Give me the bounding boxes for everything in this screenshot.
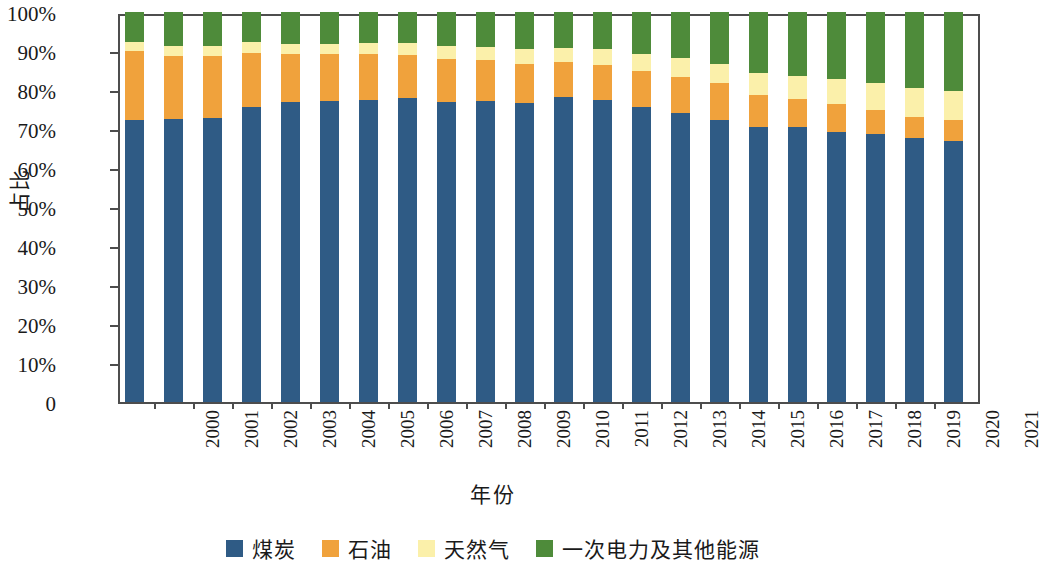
bar-segment-oil: [827, 104, 846, 131]
bar-segment-gas: [866, 83, 885, 110]
bar-segment-oil: [359, 54, 378, 100]
bar-segment-oil: [710, 83, 729, 120]
bar-segment-gas: [164, 46, 183, 56]
x-tick-mark: [856, 402, 858, 409]
bar-stack: [827, 12, 846, 402]
bar-segment-primary-electricity: [905, 12, 924, 88]
bar-segment-oil: [671, 77, 690, 113]
bar-segment-oil: [203, 56, 222, 118]
bar-segment-coal: [203, 118, 222, 402]
bar-segment-coal: [281, 102, 300, 402]
y-tick-label: 100%: [0, 2, 56, 27]
x-tick-label: 2016: [826, 410, 848, 470]
legend-label: 天然气: [444, 533, 510, 563]
bar-segment-gas: [125, 42, 144, 51]
bar-segment-coal: [437, 102, 456, 402]
bar-segment-oil: [164, 56, 183, 120]
x-tick-mark: [817, 402, 819, 409]
legend-label: 一次电力及其他能源: [562, 533, 760, 563]
bar-stack: [359, 12, 378, 402]
x-tick-label: 2000: [202, 410, 224, 470]
bar-stack: [476, 12, 495, 402]
x-tick-label: 2005: [397, 410, 419, 470]
x-tick-mark: [232, 402, 234, 409]
bar-segment-oil: [866, 110, 885, 135]
x-tick-label: 2013: [709, 410, 731, 470]
legend-item[interactable]: 天然气: [418, 533, 510, 563]
bar-segment-oil: [476, 60, 495, 101]
x-tick-mark: [895, 402, 897, 409]
bar-segment-gas: [593, 49, 612, 65]
bar-segment-primary-electricity: [749, 12, 768, 73]
bar-segment-gas: [359, 43, 378, 54]
x-tick-label: 2012: [670, 410, 692, 470]
bar-stack: [710, 12, 729, 402]
x-tick-mark: [310, 402, 312, 409]
bar-segment-gas: [203, 46, 222, 56]
x-tick-label: 2010: [592, 410, 614, 470]
bar-segment-primary-electricity: [554, 12, 573, 48]
bar-segment-gas: [710, 64, 729, 83]
bar-segment-gas: [437, 46, 456, 59]
bar-segment-coal: [515, 103, 534, 402]
y-tick-label: 50%: [0, 197, 56, 222]
bar-segment-primary-electricity: [242, 12, 261, 42]
legend-item[interactable]: 一次电力及其他能源: [536, 533, 760, 563]
bar-segment-oil: [281, 54, 300, 102]
bar-segment-coal: [827, 132, 846, 402]
bar-stack: [164, 12, 183, 402]
x-tick-mark: [466, 402, 468, 409]
legend-item[interactable]: 煤炭: [226, 533, 296, 563]
bar-stack: [242, 12, 261, 402]
bar-stack: [281, 12, 300, 402]
y-tick-label: 20%: [0, 314, 56, 339]
x-tick-label: 2009: [553, 410, 575, 470]
bar-stack: [593, 12, 612, 402]
x-tick-mark: [388, 402, 390, 409]
bar-stack: [866, 12, 885, 402]
bar-segment-coal: [320, 101, 339, 402]
y-tick-label: 0: [0, 392, 56, 417]
bar-segment-coal: [788, 127, 807, 402]
x-tick-label: 2007: [475, 410, 497, 470]
bar-segment-gas: [788, 76, 807, 99]
bar-segment-primary-electricity: [398, 12, 417, 43]
bar-segment-primary-electricity: [320, 12, 339, 44]
bar-segment-primary-electricity: [593, 12, 612, 49]
x-tick-mark: [661, 402, 663, 409]
bar-segment-coal: [944, 141, 963, 402]
bar-segment-coal: [554, 97, 573, 402]
x-tick-mark: [739, 402, 741, 409]
bar-segment-coal: [242, 107, 261, 402]
legend-item[interactable]: 石油: [322, 533, 392, 563]
bar-segment-gas: [515, 49, 534, 64]
bar-segment-coal: [398, 98, 417, 402]
x-tick-mark: [934, 402, 936, 409]
bar-segment-oil: [398, 55, 417, 98]
y-tick-label: 10%: [0, 353, 56, 378]
bar-segment-gas: [554, 48, 573, 62]
x-tick-mark: [544, 402, 546, 409]
bar-segment-primary-electricity: [203, 12, 222, 46]
bar-segment-oil: [944, 120, 963, 141]
x-tick-label: 2002: [280, 410, 302, 470]
legend-swatch-icon: [536, 540, 553, 557]
bar-segment-gas: [827, 79, 846, 104]
bar-segment-gas: [944, 91, 963, 120]
bar-stack: [515, 12, 534, 402]
bar-segment-primary-electricity: [164, 12, 183, 46]
y-tick-label: 60%: [0, 158, 56, 183]
bar-stack: [944, 12, 963, 402]
legend-swatch-icon: [322, 540, 339, 557]
bar-segment-gas: [476, 47, 495, 61]
bar-segment-primary-electricity: [515, 12, 534, 49]
bar-segment-primary-electricity: [437, 12, 456, 46]
bar-segment-gas: [281, 44, 300, 54]
x-tick-mark: [505, 402, 507, 409]
bar-segment-primary-electricity: [788, 12, 807, 76]
x-axis-title: 年份: [0, 478, 986, 508]
bar-segment-oil: [125, 51, 144, 120]
bar-stack: [905, 12, 924, 402]
chart-legend: 煤炭石油天然气一次电力及其他能源: [0, 533, 986, 563]
